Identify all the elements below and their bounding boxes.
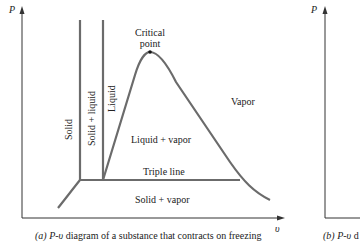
saturation-dome-curve <box>103 52 270 200</box>
liquid-vapor-region-label: Liquid + vapor <box>131 135 191 145</box>
v-axis-label: υ <box>275 224 280 234</box>
solid-region-label: Solid <box>64 119 74 140</box>
liquid-region-label: Liquid <box>107 85 117 112</box>
critical-point-dot <box>148 50 152 54</box>
solid-liquid-region-label: Solid + liquid <box>87 91 97 146</box>
critical-point-label: Critical point <box>135 28 165 49</box>
panel-b-p-axis-label: P <box>311 5 317 15</box>
p-axis-arrow-icon <box>20 6 25 14</box>
panel-b-p-axis-arrow-icon <box>323 6 328 14</box>
vapor-region-label: Vapor <box>231 97 255 107</box>
triple-line-label: Triple line <box>143 167 185 177</box>
panel-b-caption: (b) P-υ d <box>323 230 359 241</box>
panel-a-caption: (a) P-υ diagram of a substance that cont… <box>35 230 261 241</box>
v-axis-arrow-icon <box>277 216 285 221</box>
solid-vapor-region-label: Solid + vapor <box>135 195 190 205</box>
pv-diagram-graphics <box>0 0 360 245</box>
p-axis-label: P <box>9 5 15 15</box>
sublimation-curve <box>58 180 80 208</box>
